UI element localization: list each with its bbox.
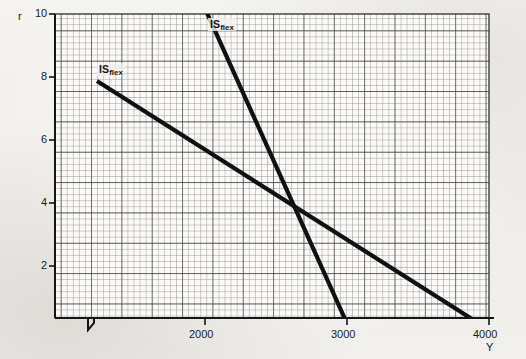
- curve-label-is-flex-flat: ISflex: [97, 63, 125, 76]
- y-tick-label-4: 4: [41, 197, 47, 208]
- curve-label-base: IS: [99, 63, 109, 75]
- y-axis-title: r: [18, 11, 22, 22]
- curve-label-subscript: flex: [220, 23, 234, 32]
- graph-svg: [0, 0, 526, 359]
- y-tick-label-8: 8: [41, 71, 47, 82]
- curve-label-subscript: flex: [109, 68, 123, 77]
- x-tick-label-4000: 4000: [473, 329, 497, 340]
- x-axis-title: Y: [486, 342, 493, 353]
- curve-label-base: IS: [210, 18, 220, 30]
- plot-grid: [55, 14, 489, 318]
- graph-figure: r 10 8 6 4 2 2000 3000 4000 Y ISflex ISf…: [0, 0, 526, 359]
- x-tick-label-2000: 2000: [189, 329, 213, 340]
- x-tick-label-3000: 3000: [331, 329, 355, 340]
- y-tick-label-2: 2: [41, 260, 47, 271]
- x-axis-break-icon: [88, 318, 94, 330]
- y-tick-label-10: 10: [35, 8, 47, 19]
- y-tick-label-6: 6: [41, 134, 47, 145]
- curve-label-is-flex-steep: ISflex: [208, 18, 236, 31]
